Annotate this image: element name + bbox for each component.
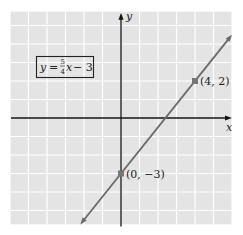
equation-denominator: 4 bbox=[61, 68, 66, 76]
x-axis-label: x bbox=[226, 121, 233, 134]
equation-variable: x bbox=[66, 61, 73, 74]
data-point bbox=[192, 78, 198, 84]
equation-numerator: 5 bbox=[61, 58, 65, 66]
line-graph: x y (4, 2)(0, −3) y = 5 4 x − 3 bbox=[0, 0, 243, 235]
point-label: (0, −3) bbox=[126, 168, 165, 181]
data-point bbox=[118, 171, 124, 177]
equation-constant: − 3 bbox=[73, 61, 93, 74]
point-label: (4, 2) bbox=[200, 75, 230, 88]
equation-equals: = bbox=[49, 61, 58, 74]
y-axis-label: y bbox=[125, 10, 133, 23]
equation-lhs: y bbox=[39, 61, 47, 74]
